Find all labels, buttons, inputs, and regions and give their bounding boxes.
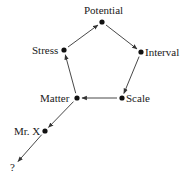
diagram-edges bbox=[0, 0, 190, 182]
node-label-stress: Stress bbox=[32, 45, 58, 56]
node-dot-potential bbox=[99, 19, 104, 24]
node-dot-mrx bbox=[42, 128, 47, 133]
node-dot-interval bbox=[138, 49, 143, 54]
node-dot-matter bbox=[74, 95, 79, 100]
flow-diagram: Potential Interval Scale Matter Stress M… bbox=[0, 0, 190, 182]
edge-potential-to-interval bbox=[106, 25, 137, 49]
node-dot-scale bbox=[119, 95, 124, 100]
node-label-scale: Scale bbox=[126, 93, 150, 104]
node-label-matter: Matter bbox=[40, 93, 69, 104]
node-label-interval: Interval bbox=[145, 47, 179, 58]
node-dot-stress bbox=[61, 47, 66, 52]
edge-mrx-to-unknown bbox=[18, 135, 42, 162]
edge-stress-to-potential bbox=[68, 25, 98, 47]
edge-matter-to-stress bbox=[65, 55, 75, 93]
edge-interval-to-scale bbox=[124, 57, 139, 94]
edge-matter-to-mrx bbox=[49, 102, 74, 128]
node-label-mrx: Mr. X bbox=[14, 126, 40, 137]
node-label-potential: Potential bbox=[84, 5, 123, 16]
node-label-unknown: ? bbox=[10, 162, 15, 173]
